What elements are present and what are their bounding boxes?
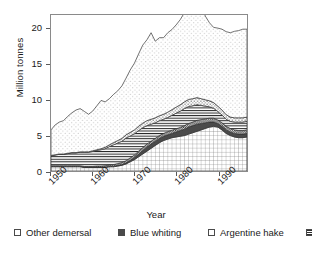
y-tick-label: 10 bbox=[20, 95, 42, 105]
y-tick-label: 0 bbox=[20, 167, 42, 177]
legend-item[interactable]: Blue whiting bbox=[118, 225, 208, 239]
y-tick-label: 20 bbox=[20, 23, 42, 33]
y-tick-label: 15 bbox=[20, 59, 42, 69]
legend-swatch-other-demersal bbox=[14, 229, 21, 236]
legend-swatch-argentine-hake bbox=[208, 229, 215, 236]
legend-item-label: Other demersal bbox=[26, 227, 91, 238]
legend-item-label: Argentine hake bbox=[220, 227, 284, 238]
y-tick-label: 5 bbox=[20, 131, 42, 141]
plot-area bbox=[50, 14, 248, 172]
legend-item[interactable]: Argentine hake bbox=[208, 225, 306, 239]
legend-item[interactable]: Other demersal bbox=[14, 225, 118, 239]
stacked-area-chart: Million tonnes 05101520 bbox=[0, 0, 312, 265]
legend-swatch-blue-whiting bbox=[118, 229, 125, 236]
chart-legend: Other demersalBlue whitingArgentine hake… bbox=[14, 225, 306, 239]
legend-swatch-atlantic-cod bbox=[306, 229, 312, 236]
legend-item[interactable]: Atlantic cod bbox=[306, 225, 312, 239]
plot-svg bbox=[51, 15, 247, 171]
legend-item-label: Blue whiting bbox=[130, 227, 181, 238]
x-axis-title: Year bbox=[0, 209, 312, 220]
